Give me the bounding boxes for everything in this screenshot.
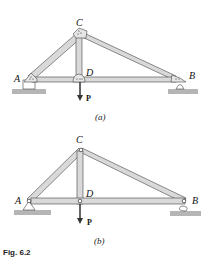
gusset-c bbox=[73, 28, 87, 38]
truss-b: A C D B P (b) bbox=[14, 134, 201, 246]
member-cb-b bbox=[80, 148, 186, 203]
member-ac bbox=[28, 33, 82, 80]
member-cd-b bbox=[77, 151, 83, 204]
member-ab bbox=[32, 77, 176, 82]
label-b-load: P bbox=[87, 218, 92, 227]
arrow-head-icon bbox=[77, 218, 83, 224]
truss-a: A C D B P (a) bbox=[12, 17, 198, 122]
gusset-d bbox=[73, 74, 85, 82]
label-a-joint-d: D bbox=[85, 67, 94, 78]
label-a-joint-b: B bbox=[189, 70, 195, 81]
caption-b: (b) bbox=[94, 236, 105, 246]
member-ac-b bbox=[27, 148, 83, 203]
gusset-b bbox=[171, 75, 186, 82]
ground-a-left bbox=[12, 89, 46, 94]
roller-b-icon bbox=[176, 85, 184, 90]
label-a-load: P bbox=[86, 94, 91, 103]
label-b-joint-c: C bbox=[76, 134, 83, 145]
label-a-joint-c: C bbox=[76, 17, 83, 28]
label-b-joint-a: A bbox=[14, 195, 22, 206]
arrow-head-icon bbox=[77, 95, 83, 101]
figure-caption: Fig. 6.2 bbox=[3, 248, 31, 257]
ground-b-right2 bbox=[170, 211, 201, 216]
truss-figure: A C D B P (a) A C D B P (b) bbox=[0, 0, 212, 265]
caption-a: (a) bbox=[95, 112, 106, 122]
label-a-joint-a: A bbox=[13, 73, 21, 84]
ground-b-left bbox=[14, 210, 51, 215]
roller-support-b-icon bbox=[179, 206, 187, 211]
label-b-joint-b: B bbox=[192, 195, 198, 206]
label-b-joint-d: D bbox=[85, 188, 94, 199]
member-cd bbox=[76, 36, 82, 77]
member-cb bbox=[82, 33, 176, 80]
ground-b-right bbox=[168, 89, 198, 94]
member-ab-b bbox=[31, 198, 185, 204]
